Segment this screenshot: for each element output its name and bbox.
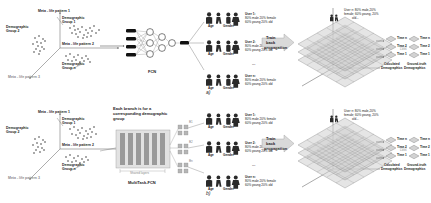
gt-time-n-a: Time n [420, 37, 430, 40]
grid-annotation-a-3: old... [352, 17, 359, 20]
gt-time-n-b: Time n [420, 138, 430, 141]
gt-time-1-b: Time 1 [420, 154, 430, 157]
calculated-title-b-2: Demographics [381, 168, 403, 171]
calc-time-n-a: Time n [397, 37, 407, 40]
calc-time-1-a: Time 1 [397, 53, 407, 56]
grid-annotation-b-2: female; 60% young, 20% [344, 114, 378, 117]
calculated-title-a-2: Demographics [381, 67, 403, 70]
ground-truth-title-b-2: Demographics [404, 168, 426, 171]
loss-label-a: Loss [400, 48, 407, 51]
calc-time-n-b: Time n [397, 138, 407, 141]
gt-time-2-b: Time 2 [420, 146, 430, 149]
panel-a-tag: a) [206, 90, 210, 95]
calc-time-1-b: Time 1 [397, 154, 407, 157]
grid-annotation-b-3: old... [352, 118, 359, 121]
panel-b-tag: b) [206, 191, 210, 196]
gt-time-1-a: Time 1 [420, 53, 430, 56]
grid-annotation-a-2: female; 60% young, 20% [344, 13, 378, 16]
panel-a: Meta - life pattern 1 Meta - life patter… [0, 0, 431, 101]
panel-b: Meta - life pattern 1 Meta - life patter… [0, 101, 431, 202]
ground-truth-title-a-2: Demographics [404, 67, 426, 70]
loss-label-b: Loss [400, 149, 407, 152]
gt-time-2-a: Time 2 [420, 45, 430, 48]
